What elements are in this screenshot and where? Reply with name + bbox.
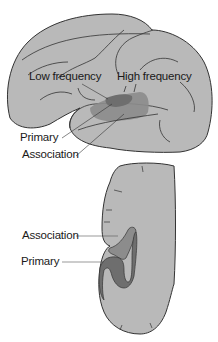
brain-illustration: [0, 0, 218, 342]
primary-label-coronal: Primary: [21, 255, 59, 267]
auditory-cortex-diagram: Low frequency High frequency Primary Ass…: [0, 0, 218, 342]
primary-label-lateral: Primary: [20, 131, 58, 143]
association-label-lateral: Association: [22, 148, 79, 160]
coronal-brain-section: [62, 163, 176, 334]
high-frequency-label: High frequency: [117, 70, 192, 82]
association-label-coronal: Association: [22, 229, 79, 241]
low-frequency-label: Low frequency: [29, 70, 101, 82]
